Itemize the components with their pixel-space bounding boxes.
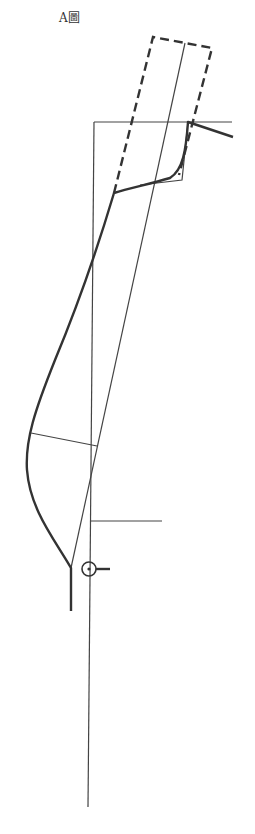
outline-curve <box>27 122 233 611</box>
dashed-extension-rectangle <box>114 37 212 193</box>
crossing-line <box>31 433 97 446</box>
reference-box-corner <box>140 122 188 185</box>
pivot-center-dot <box>87 567 90 570</box>
pattern-diagram <box>0 0 255 834</box>
